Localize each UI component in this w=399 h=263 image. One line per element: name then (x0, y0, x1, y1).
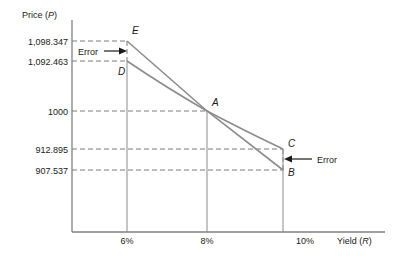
error-arrow-top-head (119, 48, 127, 55)
y-tick-label-1092: 1,092.463 (28, 57, 68, 67)
x-axis-title: Yield (R) (337, 236, 372, 246)
tangent-line (127, 41, 283, 170)
point-label-a: A (211, 97, 219, 108)
axes (72, 20, 385, 232)
drop-lines (127, 61, 283, 232)
x-axis-title-suffix: ) (369, 236, 372, 246)
error-arrows (104, 48, 312, 163)
y-tick-label-907: 907.537 (35, 166, 68, 176)
price-yield-curve (127, 61, 283, 149)
point-label-b: B (288, 167, 295, 178)
error-label-top: Error (78, 47, 98, 57)
chart-canvas: 1,098.347 1,092.463 1000 912.895 907.537… (0, 0, 399, 263)
y-axis-title: Price (P) (22, 10, 57, 20)
x-tick-label-6pct: 6% (120, 236, 133, 246)
y-axis-title-suffix: ) (54, 10, 57, 20)
y-tick-label-1000: 1000 (48, 107, 68, 117)
error-label-bottom: Error (317, 155, 337, 165)
y-tick-label-1098: 1,098.347 (28, 37, 68, 47)
y-tick-label-912: 912.895 (35, 145, 68, 155)
x-tick-label-10pct: 10% (296, 236, 314, 246)
point-label-c: C (288, 138, 296, 149)
error-arrow-bottom-head (284, 156, 292, 163)
dashed-guide-lines (72, 41, 283, 170)
price-yield-chart: 1,098.347 1,092.463 1000 912.895 907.537… (0, 0, 399, 263)
x-tick-label-8pct: 8% (200, 236, 213, 246)
point-label-e: E (132, 25, 139, 36)
x-axis-title-prefix: Yield ( (337, 236, 362, 246)
point-label-d: D (118, 66, 125, 77)
y-axis-title-prefix: Price ( (22, 10, 48, 20)
